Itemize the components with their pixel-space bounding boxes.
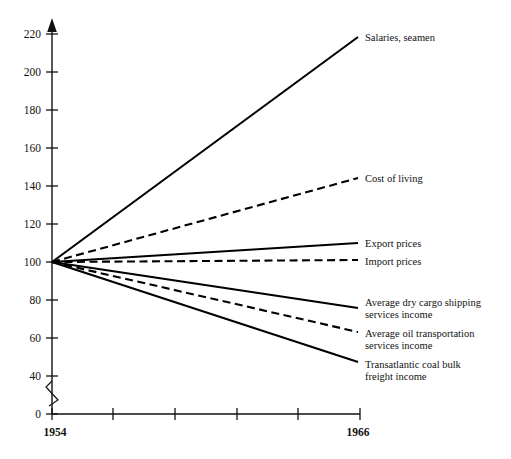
series-line-dry-cargo-shipping [52,262,358,308]
chart-figure: 220 200 180 160 140 120 100 80 60 40 0 1… [0,0,511,459]
series-group [52,37,358,362]
y-axis-label-60: 60 [30,332,42,344]
series-label-transatlantic-coal-line1: Transatlantic coal bulk [365,359,462,370]
series-label-oil-transportation-line2: services income [365,340,433,351]
series-label-oil-transportation-line1: Average oil transportation [365,328,475,339]
series-line-oil-transportation [52,262,358,332]
series-label-import-prices: Import prices [365,256,421,267]
series-line-transatlantic-coal [52,262,358,362]
y-axis-arrow-icon [47,18,57,32]
y-axis-label-80: 80 [30,294,42,306]
series-line-cost-of-living [52,178,358,262]
y-axis-label-220: 220 [24,28,42,40]
y-axis: 220 200 180 160 140 120 100 80 60 40 0 [24,18,58,420]
y-axis-label-40: 40 [30,370,42,382]
x-axis: 1954 1966 [44,408,370,438]
y-axis-label-160: 160 [24,142,42,154]
y-axis-label-200: 200 [24,66,42,78]
series-line-salaries-seamen [52,37,358,262]
series-label-dry-cargo-shipping-line1: Average dry cargo shipping [365,297,482,308]
series-line-export-prices [52,243,358,262]
line-chart-svg: 220 200 180 160 140 120 100 80 60 40 0 1… [0,0,511,459]
y-axis-label-120: 120 [24,218,42,230]
x-axis-label-end: 1966 [347,426,370,438]
series-label-export-prices: Export prices [365,238,421,249]
series-labels-group: Salaries, seamen Cost of living Export p… [365,32,482,382]
series-line-import-prices [52,260,358,262]
series-label-cost-of-living: Cost of living [365,173,424,184]
series-label-dry-cargo-shipping-line2: services income [365,309,433,320]
y-axis-label-0: 0 [35,408,41,420]
x-axis-label-start: 1954 [44,426,67,438]
series-label-salaries-seamen: Salaries, seamen [365,32,436,43]
y-axis-label-140: 140 [24,180,42,192]
series-label-transatlantic-coal-line2: freight income [365,371,427,382]
y-axis-label-100: 100 [24,256,42,268]
y-axis-label-180: 180 [24,104,42,116]
